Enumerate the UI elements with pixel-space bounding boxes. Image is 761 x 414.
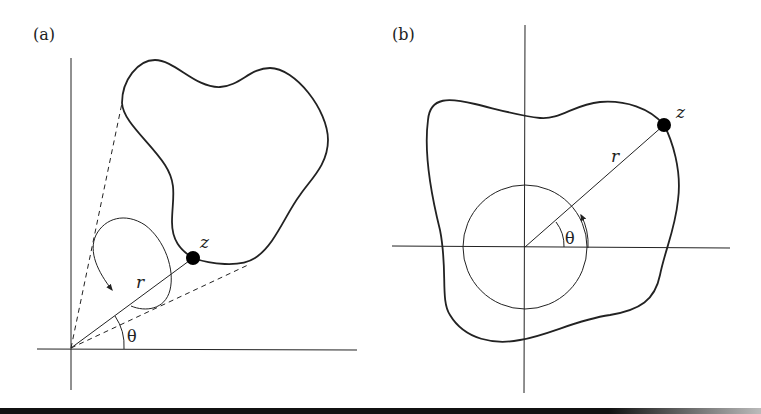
panel-b-y-axis [524,25,525,393]
panel-b-closed-curve [427,100,679,342]
panel-a-tangent-lower [71,265,248,348]
panel-a-x-axis [37,349,357,350]
panel-a-tangent-upper [71,103,122,348]
panel-a-point-z [186,251,200,265]
panel-a-theta-label: θ [127,327,137,346]
panel-b: (b) θ r z [392,25,730,393]
panel-b-angle-arc [556,222,564,247]
panel-b-label: (b) [392,25,415,44]
panel-a-z-label: z [199,232,210,252]
bottom-border [0,408,761,414]
panel-a-label: (a) [33,25,55,44]
panel-a-angle-arc [115,316,124,349]
panel-b-theta-label: θ [565,229,575,248]
panel-b-radius-line [525,125,664,247]
panel-b-z-label: z [675,102,686,122]
panel-a-winding-loop [93,218,171,309]
panel-a-closed-curve [122,60,328,264]
panel-a-r-label: r [136,272,145,292]
panel-b-point-z [657,118,671,132]
figure: (a) θ r z (b) θ r [0,0,761,414]
panel-a: (a) θ r z [33,25,357,390]
panel-b-r-label: r [611,146,620,166]
